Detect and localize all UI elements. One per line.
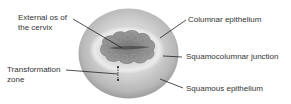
transformation-zone-dot-bottom — [117, 79, 119, 81]
label-external-os-line2: the cervix — [18, 23, 67, 33]
label-transformation-zone-line1: Transformation — [7, 65, 61, 75]
label-squamocolumnar-junction: Squamocolumnar junction — [186, 52, 279, 62]
label-transformation-zone-line2: zone — [7, 75, 61, 85]
label-external-os-line1: External os of — [18, 13, 67, 23]
transformation-zone-dot-top — [117, 66, 119, 68]
label-squamous-epithelium: Squamous epithelium — [186, 84, 263, 94]
label-columnar-epithelium: Columnar epithelium — [188, 15, 261, 25]
label-external-os: External os of the cervix — [18, 13, 67, 32]
label-transformation-zone: Transformation zone — [7, 65, 61, 84]
